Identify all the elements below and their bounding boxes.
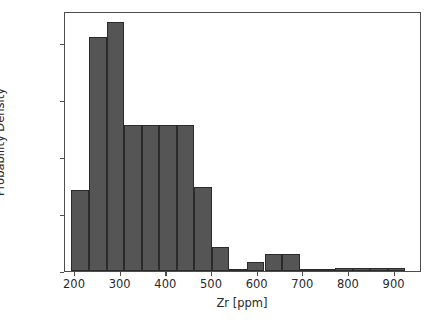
histogram-bar xyxy=(212,247,229,271)
histogram-bar xyxy=(124,125,142,271)
histogram-bar xyxy=(282,254,299,271)
x-axis-tick-label: 600 xyxy=(246,277,268,291)
x-axis-tick-label: 900 xyxy=(383,277,405,291)
histogram-bar xyxy=(107,22,124,271)
histogram-bar xyxy=(265,254,283,271)
x-axis-tick-mark xyxy=(211,272,212,276)
histogram-figure: Probability Density 0.0000.0010.0020.003… xyxy=(0,0,435,323)
x-axis-label: Zr [ppm] xyxy=(216,296,267,310)
x-axis-tick-label: 300 xyxy=(109,277,131,291)
histogram-bar xyxy=(194,187,212,271)
histogram-bar xyxy=(229,269,247,271)
x-axis-tick-label: 800 xyxy=(337,277,359,291)
y-axis-label: Probability Density xyxy=(0,88,7,196)
histogram-bar xyxy=(353,268,370,271)
histogram-bar xyxy=(177,125,194,271)
histogram-bar xyxy=(89,37,107,271)
x-axis-tick-mark xyxy=(302,272,303,276)
histogram-bar xyxy=(317,269,334,271)
x-axis-tick-label: 200 xyxy=(63,277,85,291)
x-axis-tick-mark xyxy=(394,272,395,276)
histogram-bar xyxy=(142,125,159,271)
histogram-bar xyxy=(71,190,88,271)
x-axis-tick-mark xyxy=(165,272,166,276)
y-axis-label-text: Probability Density xyxy=(0,88,7,196)
x-axis-tick-mark xyxy=(74,272,75,276)
histogram-bar xyxy=(335,268,353,271)
histogram-bar xyxy=(388,268,405,271)
x-axis-tick-label: 700 xyxy=(291,277,313,291)
histogram-bars xyxy=(65,13,420,271)
x-axis-tick-mark xyxy=(348,272,349,276)
x-axis-tick-mark xyxy=(257,272,258,276)
histogram-bar xyxy=(247,262,264,271)
histogram-bar xyxy=(159,125,177,271)
y-axis-tick-mark xyxy=(60,272,64,273)
histogram-bar xyxy=(300,269,318,271)
plot-area xyxy=(64,12,421,272)
histogram-bar xyxy=(370,268,388,271)
x-axis-tick-label: 400 xyxy=(154,277,176,291)
x-axis-tick-mark xyxy=(120,272,121,276)
x-axis-tick-label: 500 xyxy=(200,277,222,291)
